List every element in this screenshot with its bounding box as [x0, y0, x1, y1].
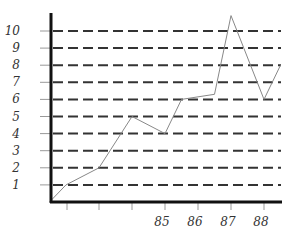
x-axis-ticks: 85868788 — [67, 203, 269, 229]
y-tick-label: 2 — [11, 161, 20, 175]
y-tick-label: 6 — [12, 92, 20, 106]
x-tick-label: 85 — [154, 215, 169, 229]
y-tick-label: 10 — [5, 24, 21, 38]
x-tick-label: 88 — [253, 215, 269, 229]
y-tick-label: 7 — [12, 75, 20, 89]
y-tick-label: 5 — [12, 110, 20, 124]
x-tick-label: 87 — [220, 215, 236, 229]
y-tick-label: 9 — [12, 41, 20, 55]
gridlines — [53, 31, 281, 185]
y-tick-label: 4 — [11, 127, 20, 141]
y-tick-label: 8 — [12, 58, 20, 72]
y-axis-labels: 12345678910 — [5, 24, 51, 192]
data-line — [50, 16, 281, 202]
y-tick-label: 3 — [12, 144, 20, 158]
line-chart: 12345678910 85868788 — [0, 0, 296, 247]
y-tick-label: 1 — [12, 178, 20, 192]
x-tick-label: 86 — [187, 215, 203, 229]
